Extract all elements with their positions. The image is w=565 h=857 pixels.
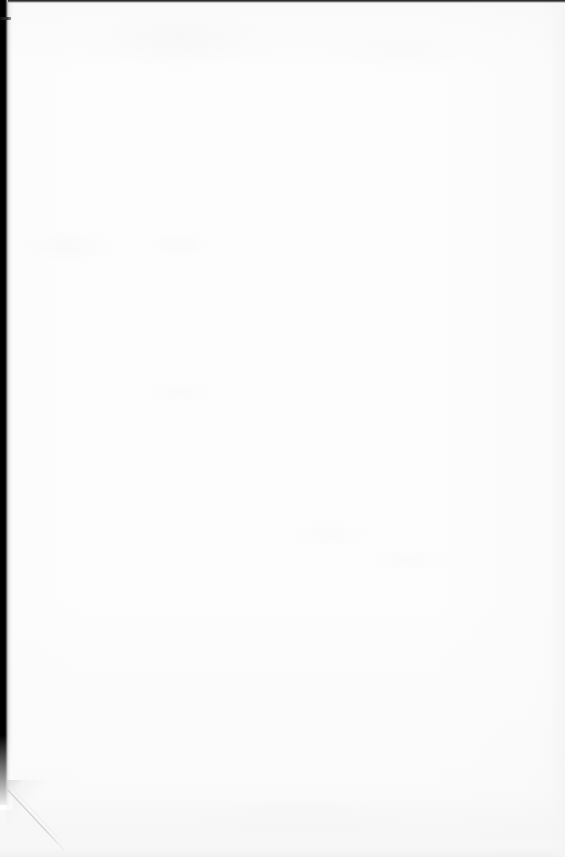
scanned-page-frame <box>0 0 565 857</box>
page-content-area <box>60 60 510 790</box>
